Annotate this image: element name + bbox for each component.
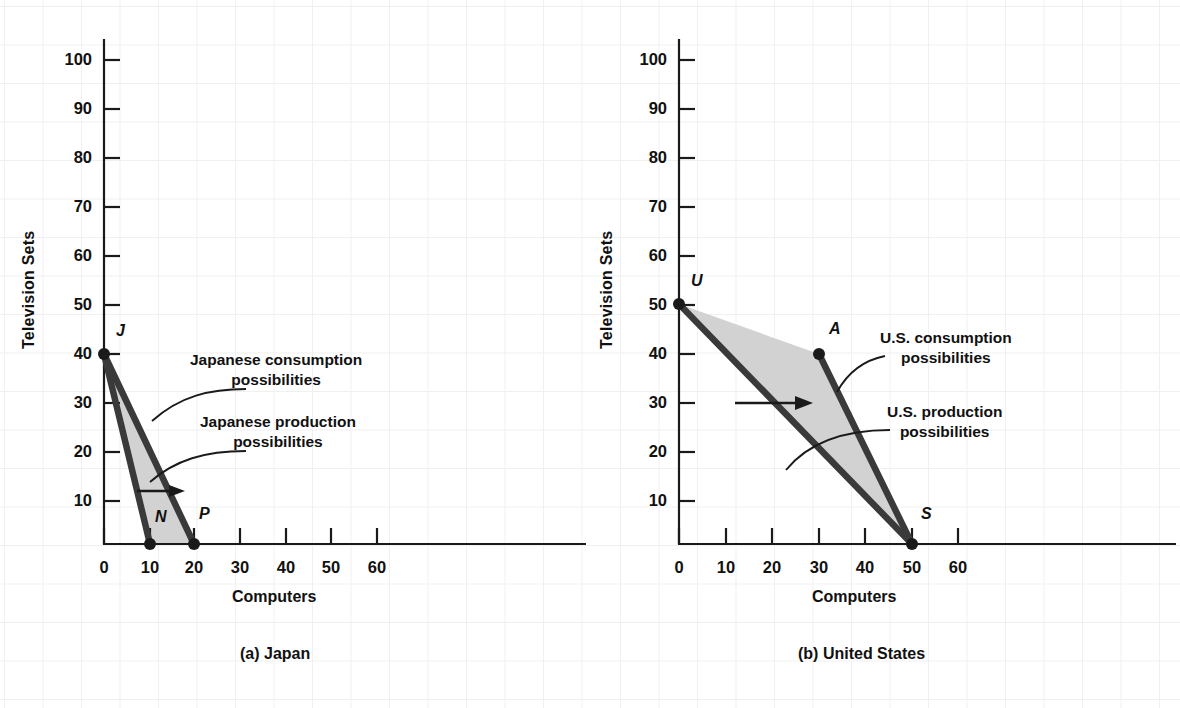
japan-ytick-60: 60 [24, 246, 92, 265]
us-annotation-consumption-line2: possibilities [880, 348, 1012, 368]
us-production-frontier-line [679, 304, 912, 544]
us-ytick-70: 70 [599, 197, 667, 216]
us-xtick-40: 40 [845, 558, 885, 577]
us-ytick-10: 10 [599, 491, 667, 510]
us-annotation-production: U.S. production possibilities [887, 402, 1002, 443]
us-point-U-marker[interactable] [673, 298, 685, 310]
japan-xtick-50: 50 [311, 558, 351, 577]
us-ytick-40: 40 [599, 344, 667, 363]
us-ytick-90: 90 [599, 99, 667, 118]
us-xtick-50: 50 [892, 558, 932, 577]
japan-xtick-60: 60 [357, 558, 397, 577]
japan-annotation-production-line1: Japanese production [200, 412, 356, 432]
us-ytick-20: 20 [599, 442, 667, 461]
us-annotation-production-line1: U.S. production [887, 402, 1002, 422]
japan-y-ticks [104, 60, 120, 501]
japan-xtick-10: 10 [130, 558, 170, 577]
us-xtick-20: 20 [752, 558, 792, 577]
japan-ytick-30: 30 [24, 393, 92, 412]
chart-panel-united-states: Television Sets 100 90 80 70 60 50 40 30… [590, 0, 1180, 708]
japan-ytick-80: 80 [24, 148, 92, 167]
japan-xtick-0: 0 [84, 558, 124, 577]
us-xtick-0: 0 [659, 558, 699, 577]
japan-xtick-20: 20 [174, 558, 214, 577]
japan-ytick-10: 10 [24, 491, 92, 510]
japan-caption: (a) Japan [240, 645, 310, 663]
us-x-axis-title: Computers [812, 588, 896, 606]
japan-x-axis-title: Computers [232, 588, 316, 606]
figure-root: Television Sets 100 90 80 70 60 50 40 30… [0, 0, 1180, 708]
japan-annotation-consumption: Japanese consumption possibilities [190, 350, 362, 391]
us-consumption-leader [837, 356, 885, 392]
japan-ytick-50: 50 [24, 295, 92, 314]
us-annotation-consumption: U.S. consumption possibilities [880, 328, 1012, 369]
us-ytick-100: 100 [599, 50, 667, 69]
japan-point-label-P: P [199, 505, 210, 523]
japan-ytick-20: 20 [24, 442, 92, 461]
japan-annotation-production-line2: possibilities [200, 432, 356, 452]
us-annotation-production-line2: possibilities [887, 422, 1002, 442]
us-xtick-10: 10 [706, 558, 746, 577]
japan-annotation-consumption-line2: possibilities [190, 370, 362, 390]
us-point-label-S: S [921, 505, 932, 523]
japan-xtick-30: 30 [220, 558, 260, 577]
japan-point-label-N: N [155, 508, 167, 526]
us-ytick-50: 50 [599, 295, 667, 314]
us-caption: (b) United States [798, 645, 925, 663]
us-xtick-30: 30 [799, 558, 839, 577]
us-annotation-consumption-line1: U.S. consumption [880, 328, 1012, 348]
japan-ytick-70: 70 [24, 197, 92, 216]
japan-annotation-consumption-line1: Japanese consumption [190, 350, 362, 370]
us-point-A-marker[interactable] [813, 348, 825, 360]
japan-annotation-production: Japanese production possibilities [200, 412, 356, 453]
us-point-label-U: U [691, 272, 703, 290]
japan-ytick-100: 100 [24, 50, 92, 69]
chart-panel-japan: Television Sets 100 90 80 70 60 50 40 30… [0, 0, 590, 708]
us-point-S-marker[interactable] [906, 538, 918, 550]
japan-xtick-40: 40 [266, 558, 306, 577]
japan-point-P-marker[interactable] [188, 538, 200, 550]
japan-ytick-40: 40 [24, 344, 92, 363]
us-point-label-A: A [829, 320, 841, 338]
us-ytick-60: 60 [599, 246, 667, 265]
japan-ytick-90: 90 [24, 99, 92, 118]
us-ytick-30: 30 [599, 393, 667, 412]
us-ytick-80: 80 [599, 148, 667, 167]
us-xtick-60: 60 [938, 558, 978, 577]
japan-point-N-marker[interactable] [144, 538, 156, 550]
japan-point-J-marker[interactable] [98, 348, 110, 360]
japan-point-label-J: J [116, 322, 125, 340]
